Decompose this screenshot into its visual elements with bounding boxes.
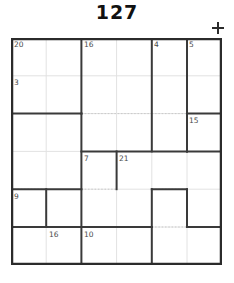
cage-sum-9: 9 [14,192,19,201]
cage-sum-5: 5 [189,40,194,49]
cage-sum-4: 4 [154,40,159,49]
killer-sudoku-puzzle: 127 [0,0,234,283]
cage-sum-3: 3 [14,78,19,87]
cage-sum-7: 7 [84,154,89,163]
puzzle-grid[interactable]: 20 16 4 5 3 15 7 21 9 16 10 [11,38,222,265]
plus-icon-vertical-bar [217,22,219,34]
cage-sum-16-lower: 16 [49,230,59,239]
cage-sum-21: 21 [119,154,129,163]
plus-icon [212,22,224,34]
cage-sum-15: 15 [189,116,199,125]
cage-sum-10: 10 [84,230,94,239]
grid-lines [11,38,222,265]
cage-sum-20: 20 [14,40,24,49]
cage-sum-16-top: 16 [84,40,94,49]
page-title: 127 [0,1,234,23]
